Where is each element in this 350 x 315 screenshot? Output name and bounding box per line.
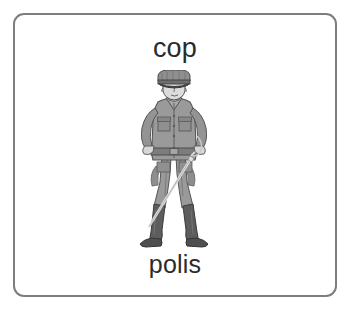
card-inner: cop (15, 15, 335, 295)
term-english: cop (15, 35, 335, 62)
flashcard-root: cop (0, 0, 350, 315)
term-swedish: polis (15, 252, 335, 277)
policeman-illustration (127, 70, 223, 254)
card-frame: cop (13, 13, 337, 297)
